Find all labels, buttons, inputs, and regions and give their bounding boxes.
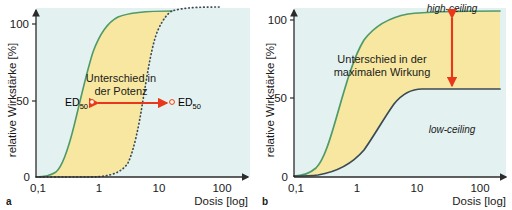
y-axis-title-a: relative Wirkstärke [%] [6, 43, 18, 157]
y-axis-title-b: relative Wirkstärke [%] [264, 43, 276, 157]
annotation-a-line2: der Potenz [94, 85, 147, 97]
x-tick-label-1-b: 1 [354, 182, 360, 194]
label-low-ceiling-b: low-ceiling [429, 124, 476, 135]
x-tick-label-10-b: 10 [411, 182, 424, 194]
x-tick-label-1-a: 1 [96, 182, 102, 194]
figure-container: 100 50 0 0,1 1 10 100 Dosis [log] relati… [0, 0, 512, 210]
ed50-marker-right-a [170, 100, 175, 105]
panel-a: 100 50 0 0,1 1 10 100 Dosis [log] relati… [0, 0, 256, 210]
annotation-b-line2: maximalen Wirkung [334, 66, 431, 78]
y-tick-label-100-b: 100 [268, 14, 287, 26]
x-axis-title-a: Dosis [log] [194, 195, 248, 207]
x-tick-label-100-a: 100 [212, 182, 231, 194]
y-tick-label-50-b: 50 [274, 92, 287, 104]
x-axis-title-b: Dosis [log] [452, 195, 506, 207]
panel-b: 100 50 0 0,1 1 10 100 Dosis [log] relati… [256, 0, 512, 210]
annotation-a-line1: Unterschied in [86, 72, 156, 84]
panel-letter-a: a [6, 196, 12, 207]
x-tick-label-10-a: 10 [153, 182, 166, 194]
y-tick-label-100-a: 100 [10, 18, 29, 30]
x-tick-label-0-1-b: 0,1 [288, 182, 304, 194]
annotation-b-line1: Unterschied in der [337, 53, 427, 65]
x-tick-label-0-1-a: 0,1 [30, 182, 46, 194]
panel-letter-b: b [262, 196, 268, 207]
x-tick-label-100-b: 100 [470, 182, 489, 194]
ed50-marker-left-a [90, 100, 95, 105]
y-tick-label-50-a: 50 [16, 95, 29, 107]
label-high-ceiling-b: high-ceiling [427, 3, 478, 14]
